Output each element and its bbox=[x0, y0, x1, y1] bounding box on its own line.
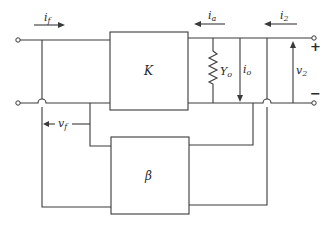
output-voltage-label: v2 bbox=[296, 64, 307, 78]
inner-loop-right-wire bbox=[189, 103, 253, 145]
feedback-amplifier-diagram: K β Yo io v2 + − if ia i2 vf bbox=[0, 0, 330, 228]
feedback-voltage-arrowhead-icon bbox=[43, 121, 49, 127]
output-admittance-resistor bbox=[209, 38, 217, 103]
load-current-arrowhead-icon bbox=[237, 95, 243, 102]
forward-block-label: K bbox=[143, 64, 154, 78]
output-voltage-arrowhead-icon bbox=[290, 41, 296, 48]
feedback-block-label: β bbox=[144, 169, 152, 183]
input-terminal-top bbox=[16, 38, 20, 42]
output-current-arrowhead-icon bbox=[264, 21, 271, 27]
amp-current-arrowhead-icon bbox=[194, 21, 201, 27]
load-current-label: io bbox=[243, 63, 252, 77]
output-current-label: i2 bbox=[280, 9, 289, 23]
input-bottom-wire bbox=[20, 99, 110, 103]
minus-sign: − bbox=[310, 86, 321, 101]
right-feedback-wire bbox=[189, 38, 267, 205]
input-current-arrowhead-icon bbox=[58, 22, 65, 28]
inner-loop-left-wire bbox=[90, 103, 111, 146]
plus-sign: + bbox=[310, 39, 321, 54]
output-admittance-label: Yo bbox=[220, 65, 232, 79]
amp-current-label: ia bbox=[208, 9, 217, 23]
output-terminal-bottom bbox=[312, 101, 316, 105]
input-current-label: if bbox=[44, 11, 53, 25]
feedback-voltage-label: vf bbox=[58, 117, 69, 131]
input-terminal-bottom bbox=[16, 101, 20, 105]
